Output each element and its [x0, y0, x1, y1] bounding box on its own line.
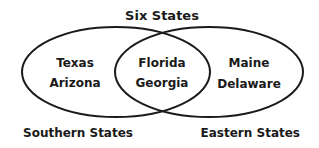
- southern-only-item: Arizona: [49, 76, 100, 90]
- venn-diagram: Six States Texas Arizona Florida Georgia…: [0, 0, 319, 148]
- eastern-only-item: Delaware: [217, 77, 281, 91]
- southern-states-label: Southern States: [23, 126, 133, 140]
- eastern-states-label: Eastern States: [201, 126, 300, 140]
- intersection-item: Florida: [138, 56, 185, 70]
- intersection-item: Georgia: [136, 76, 189, 90]
- eastern-only-item: Maine: [229, 56, 270, 70]
- southern-only-item: Texas: [56, 56, 94, 70]
- diagram-title: Six States: [125, 8, 199, 23]
